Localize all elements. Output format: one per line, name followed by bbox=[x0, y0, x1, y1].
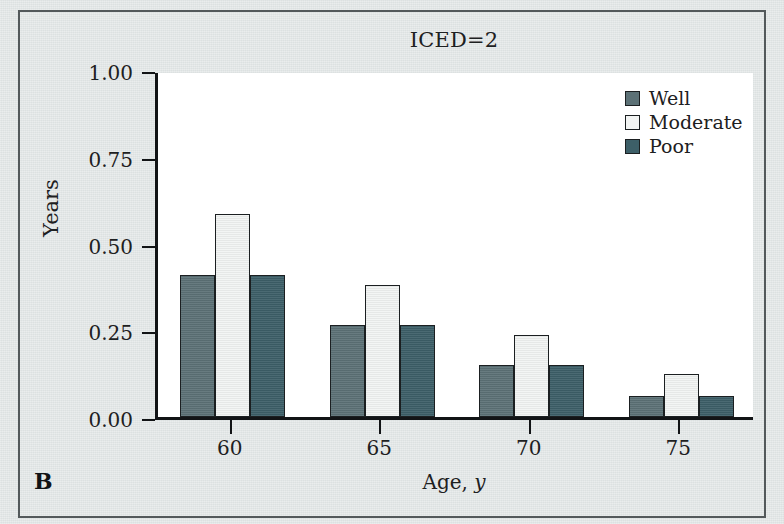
x-axis-title-unit: y bbox=[474, 470, 485, 494]
y-tick-label: 0.00 bbox=[88, 408, 133, 432]
x-tick-label: 70 bbox=[516, 436, 541, 460]
y-tick-label: 0.25 bbox=[88, 321, 133, 345]
y-tick-mark bbox=[142, 159, 155, 161]
bar-well-75 bbox=[629, 396, 664, 417]
bar-well-65 bbox=[330, 325, 365, 417]
y-axis-tick-marks bbox=[142, 73, 155, 420]
bar-poor-65 bbox=[400, 325, 435, 417]
legend-swatch-well bbox=[625, 91, 640, 106]
bar-moderate-75 bbox=[664, 374, 699, 417]
bar-moderate-65 bbox=[365, 285, 400, 417]
figure-panel-b: ICED=2 Years 0.000.250.500.751.00 606570… bbox=[0, 0, 784, 524]
bar-texture bbox=[251, 276, 284, 416]
bar-texture bbox=[515, 336, 548, 416]
y-tick-mark bbox=[142, 332, 155, 334]
legend-label-moderate: Moderate bbox=[649, 111, 743, 133]
bar-texture bbox=[550, 366, 583, 416]
bar-poor-60 bbox=[250, 275, 285, 417]
x-tick-mark bbox=[678, 420, 680, 434]
x-tick-mark bbox=[379, 420, 381, 434]
x-axis-title-text: Age, bbox=[422, 470, 474, 494]
legend-label-poor: Poor bbox=[649, 135, 693, 157]
legend-item-well: Well bbox=[625, 86, 743, 110]
bar-poor-70 bbox=[549, 365, 584, 417]
bar-texture bbox=[181, 276, 214, 416]
y-tick-mark bbox=[142, 419, 155, 421]
x-tick-label: 75 bbox=[666, 436, 691, 460]
legend: WellModeratePoor bbox=[625, 86, 743, 158]
bar-moderate-70 bbox=[514, 335, 549, 417]
y-tick-mark bbox=[142, 72, 155, 74]
x-tick-label: 65 bbox=[367, 436, 392, 460]
legend-item-poor: Poor bbox=[625, 134, 743, 158]
legend-label-well: Well bbox=[649, 87, 690, 109]
y-axis-tick-labels: 0.000.250.500.751.00 bbox=[55, 73, 133, 420]
bar-texture bbox=[366, 286, 399, 416]
x-axis-title: Age, y bbox=[155, 470, 753, 494]
x-tick-label: 60 bbox=[217, 436, 242, 460]
bar-well-60 bbox=[180, 275, 215, 417]
bar-texture bbox=[401, 326, 434, 416]
x-axis-tick-marks bbox=[155, 420, 753, 434]
panel-letter: B bbox=[34, 468, 53, 494]
bar-moderate-60 bbox=[215, 214, 250, 417]
y-tick-label: 1.00 bbox=[88, 61, 133, 85]
bar-poor-75 bbox=[699, 396, 734, 417]
bar-texture bbox=[630, 397, 663, 416]
bar-texture bbox=[331, 326, 364, 416]
bar-texture bbox=[665, 375, 698, 416]
x-axis-tick-labels: 60657075 bbox=[155, 436, 753, 464]
bar-texture bbox=[216, 215, 249, 416]
legend-item-moderate: Moderate bbox=[625, 110, 743, 134]
x-tick-mark bbox=[529, 420, 531, 434]
y-tick-label: 0.50 bbox=[88, 235, 133, 259]
chart-title: ICED=2 bbox=[155, 28, 753, 52]
y-tick-label: 0.75 bbox=[88, 148, 133, 172]
y-tick-mark bbox=[142, 246, 155, 248]
bar-well-70 bbox=[479, 365, 514, 417]
x-tick-mark bbox=[230, 420, 232, 434]
bar-texture bbox=[480, 366, 513, 416]
legend-swatch-moderate bbox=[625, 115, 640, 130]
bar-texture bbox=[700, 397, 733, 416]
legend-swatch-poor bbox=[625, 139, 640, 154]
